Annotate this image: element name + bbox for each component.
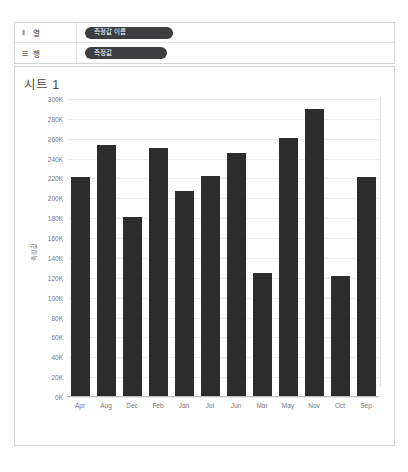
y-axis-line (67, 99, 68, 397)
y-axis-tick-label: 120K (3, 274, 63, 281)
plot-area: 300K280K260K240K220K200K180K160K140K120K… (67, 99, 379, 397)
x-axis-tick-label: Feb (145, 402, 171, 409)
bar-cell (353, 99, 379, 397)
x-axis-tick-label: Oct (327, 402, 353, 409)
bar[interactable] (279, 138, 298, 397)
bar[interactable] (71, 177, 90, 397)
y-axis-tick-label: 100K (3, 294, 63, 301)
pill-measure-values[interactable]: 측정값 (85, 47, 167, 59)
bar-cell (119, 99, 145, 397)
tableau-worksheet-window: ⦀ 열 측정값 이름 ☰ 행 측정값 시트 1 측정값 300K280K2 (0, 0, 408, 472)
y-axis-tick-label: 0K (3, 394, 63, 401)
bar-cell (197, 99, 223, 397)
rows-icon: ☰ (22, 50, 29, 57)
y-axis-tick-label: 260K (3, 135, 63, 142)
y-axis-tick-label: 300K (3, 96, 63, 103)
x-axis-tick-label: May (275, 402, 301, 409)
columns-shelf-text: 열 (33, 27, 40, 38)
bar[interactable] (331, 276, 350, 397)
bar-cell (327, 99, 353, 397)
x-axis-tick-label: Dec (119, 402, 145, 409)
bar-cell (67, 99, 93, 397)
rows-shelf-text: 행 (33, 48, 40, 59)
bar[interactable] (149, 148, 168, 397)
rows-shelf[interactable]: ☰ 행 측정값 (15, 43, 394, 63)
x-axis-tick-label: Nov (301, 402, 327, 409)
x-axis-line (67, 396, 379, 397)
y-axis-tick-label: 140K (3, 254, 63, 261)
x-axis-tick-label: Jan (171, 402, 197, 409)
x-axis-tick-label: Apr (67, 402, 93, 409)
shelf-container: ⦀ 열 측정값 이름 ☰ 행 측정값 (14, 22, 395, 64)
bar-cell (93, 99, 119, 397)
gridline (67, 397, 379, 398)
rows-shelf-field-area[interactable]: 측정값 (77, 47, 167, 59)
bar-cell (301, 99, 327, 397)
y-axis-tick-label: 220K (3, 175, 63, 182)
bar[interactable] (97, 145, 116, 397)
x-axis-labels: AprAugDecFebJanJulJunMarMayNovOctSep (67, 402, 379, 409)
y-axis-tick-label: 200K (3, 195, 63, 202)
bar[interactable] (123, 217, 142, 397)
worksheet-panel: 시트 1 측정값 300K280K260K240K220K200K180K160… (14, 66, 395, 446)
bar[interactable] (305, 109, 324, 397)
x-axis-tick-label: Sep (353, 402, 379, 409)
bar[interactable] (175, 191, 194, 397)
y-axis-tick-label: 240K (3, 155, 63, 162)
y-axis-tick-label: 60K (3, 334, 63, 341)
x-axis-tick-label: Mar (249, 402, 275, 409)
bar[interactable] (253, 273, 272, 397)
bar[interactable] (227, 153, 246, 397)
bar[interactable] (357, 177, 376, 397)
bar-cell (171, 99, 197, 397)
bar-series (67, 99, 379, 397)
rows-shelf-label: ☰ 행 (15, 43, 77, 63)
x-axis-tick-label: Jun (223, 402, 249, 409)
bar-cell (223, 99, 249, 397)
columns-shelf[interactable]: ⦀ 열 측정값 이름 (15, 23, 394, 43)
y-axis-tick-label: 80K (3, 314, 63, 321)
columns-icon: ⦀ (22, 29, 29, 36)
x-axis-tick-label: Jul (197, 402, 223, 409)
y-axis-tick-label: 280K (3, 115, 63, 122)
columns-shelf-label: ⦀ 열 (15, 23, 77, 42)
y-axis-tick-label: 20K (3, 374, 63, 381)
sheet-title: 시트 1 (24, 74, 60, 93)
y-axis-tick-label: 40K (3, 354, 63, 361)
bar-chart: 측정값 300K280K260K240K220K200K180K160K140K… (15, 93, 394, 445)
y-axis-tick-label: 180K (3, 215, 63, 222)
columns-shelf-field-area[interactable]: 측정값 이름 (77, 27, 173, 39)
bar-cell (145, 99, 171, 397)
pill-measure-names[interactable]: 측정값 이름 (85, 27, 173, 39)
bar[interactable] (201, 176, 220, 397)
bar-cell (249, 99, 275, 397)
y-axis-tick-label: 160K (3, 235, 63, 242)
bar-cell (275, 99, 301, 397)
x-axis-tick-label: Aug (93, 402, 119, 409)
